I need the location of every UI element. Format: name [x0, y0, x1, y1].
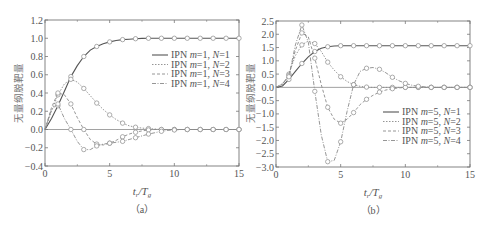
- data-marker: [429, 43, 433, 47]
- y-tick-label: 2.5: [262, 16, 275, 27]
- data-marker: [377, 43, 381, 47]
- y-tick-label: −0.4: [25, 161, 43, 172]
- y-tick-label: 0.5: [262, 69, 275, 80]
- data-marker: [185, 36, 189, 40]
- data-marker: [120, 121, 124, 125]
- data-marker: [56, 91, 60, 95]
- y-tick-label: −2.5: [256, 148, 274, 159]
- data-marker: [198, 36, 202, 40]
- data-marker: [351, 110, 355, 114]
- data-marker: [390, 86, 394, 90]
- data-marker: [172, 128, 176, 132]
- data-marker: [95, 101, 99, 105]
- series-line-N2: [276, 41, 470, 88]
- data-marker: [313, 56, 317, 60]
- data-marker: [82, 86, 86, 90]
- y-tick-label: 1.0: [262, 55, 275, 66]
- legend: IPN m=1, N=1IPN m=1, N=2IPN m=1, N=3IPN …: [152, 49, 230, 89]
- data-marker: [455, 85, 459, 89]
- data-marker: [287, 75, 291, 79]
- data-marker: [146, 128, 150, 132]
- data-marker: [442, 85, 446, 89]
- x-tick-label: 5: [107, 168, 112, 179]
- data-marker: [455, 43, 459, 47]
- data-marker: [416, 84, 420, 88]
- data-marker: [82, 127, 86, 131]
- data-marker: [224, 127, 228, 131]
- data-marker: [326, 105, 330, 109]
- x-tick-label: 5: [338, 169, 343, 180]
- data-marker: [69, 102, 73, 106]
- data-marker: [313, 89, 317, 93]
- data-marker: [107, 40, 111, 44]
- y-tick-label: −2.0: [256, 135, 274, 146]
- data-marker: [300, 43, 304, 47]
- data-marker: [211, 36, 215, 40]
- y-tick-label: 0.2: [31, 106, 44, 117]
- data-marker: [120, 37, 124, 41]
- data-marker: [82, 147, 86, 151]
- legend-entry: IPN m=5, N=4: [402, 135, 461, 146]
- series-line-N4: [45, 104, 239, 150]
- data-marker: [326, 159, 330, 163]
- data-marker: [429, 85, 433, 89]
- y-tick-label: 0.8: [31, 51, 44, 62]
- data-marker: [377, 90, 381, 94]
- x-tick-label: 10: [400, 169, 410, 180]
- data-marker: [133, 125, 137, 129]
- data-marker: [172, 36, 176, 40]
- y-tick-label: 0.6: [31, 69, 44, 80]
- x-tick-label: 10: [169, 168, 179, 179]
- data-marker: [133, 136, 137, 140]
- series-line-N1: [276, 46, 470, 88]
- data-marker: [146, 36, 150, 40]
- data-marker: [338, 75, 342, 79]
- x-axis-label: tr/Tg: [133, 185, 152, 199]
- plot-frame: [45, 20, 239, 166]
- data-marker: [313, 41, 317, 45]
- data-marker: [338, 43, 342, 47]
- y-tick-label: −0.5: [256, 95, 274, 106]
- data-marker: [364, 43, 368, 47]
- y-tick-label: 1.0: [31, 33, 44, 44]
- data-marker: [69, 127, 73, 131]
- y-tick-label: −1.0: [256, 108, 274, 119]
- data-marker: [300, 23, 304, 27]
- x-tick-label: 0: [274, 169, 279, 180]
- data-marker: [107, 141, 111, 145]
- data-marker: [364, 97, 368, 101]
- data-marker: [442, 43, 446, 47]
- data-marker: [377, 85, 381, 89]
- series-line-N3: [45, 93, 239, 145]
- data-marker: [185, 127, 189, 131]
- data-marker: [403, 43, 407, 47]
- y-tick-label: 2.0: [262, 29, 275, 40]
- data-marker: [120, 139, 124, 143]
- x-tick-label: 0: [43, 168, 48, 179]
- data-marker: [69, 77, 73, 81]
- data-marker: [364, 66, 368, 70]
- data-marker: [351, 83, 355, 87]
- panel-caption: （a）: [130, 204, 154, 215]
- y-tick-label: −3.0: [256, 162, 274, 173]
- data-marker: [403, 81, 407, 85]
- data-marker: [468, 43, 472, 47]
- legend: IPN m=5, N=1IPN m=5, N=2IPN m=5, N=3IPN …: [383, 106, 461, 146]
- data-marker: [338, 140, 342, 144]
- data-marker: [133, 130, 137, 134]
- data-marker: [56, 102, 60, 106]
- y-axis-label: 无量纲脱靶量: [245, 63, 256, 123]
- data-marker: [416, 43, 420, 47]
- y-tick-label: 1.5: [262, 42, 275, 53]
- data-marker: [159, 129, 163, 133]
- data-marker: [326, 60, 330, 64]
- data-marker: [82, 54, 86, 58]
- chart-panel-b: 051015−3.0−2.5−2.0−1.5−1.0−0.50.00.51.01…: [245, 16, 475, 217]
- data-marker: [237, 127, 241, 131]
- data-marker: [326, 45, 330, 49]
- data-marker: [198, 127, 202, 131]
- data-marker: [237, 36, 241, 40]
- data-marker: [390, 75, 394, 79]
- data-marker: [95, 144, 99, 148]
- y-tick-label: 0.0: [31, 124, 44, 135]
